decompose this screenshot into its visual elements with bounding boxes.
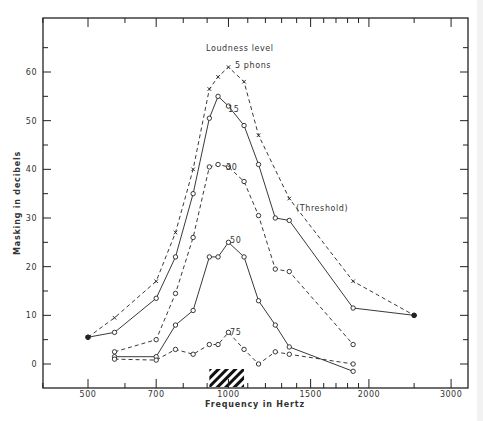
plot-frame	[43, 18, 468, 388]
circle-marker-icon	[351, 306, 355, 310]
circle-marker-icon	[273, 350, 277, 354]
circle-marker-icon	[207, 116, 211, 120]
circle-marker-icon	[191, 235, 195, 239]
x-tick-label: 2000	[358, 390, 380, 399]
y-tick-label: 50	[26, 117, 37, 126]
series-line	[115, 164, 354, 351]
x-tick-label: 1000	[217, 390, 239, 399]
y-tick-label: 40	[26, 165, 37, 174]
circle-marker-icon	[287, 352, 291, 356]
annotations: Loudness level5 phons15305075(Threshold)	[206, 44, 348, 338]
x-tick-label: 3000	[440, 390, 462, 399]
circle-marker-icon	[273, 267, 277, 271]
y-axis-label: Masking in decibels	[13, 151, 22, 255]
circle-marker-icon	[173, 323, 177, 327]
circle-marker-icon	[242, 179, 246, 183]
circle-marker-icon	[216, 162, 220, 166]
plot-border	[43, 18, 468, 388]
annotation-label: 50	[230, 236, 241, 245]
x-tick-label: 1500	[299, 390, 321, 399]
series-5-phons	[86, 65, 416, 339]
circle-marker-icon	[273, 323, 277, 327]
circle-marker-icon	[256, 362, 260, 366]
y-tick-label: 0	[31, 360, 37, 369]
y-tick-label: 30	[26, 214, 37, 223]
series-line	[88, 67, 414, 337]
y-axis-ticks: 0102030405060	[26, 48, 468, 369]
circle-marker-icon	[207, 342, 211, 346]
circle-marker-icon	[216, 255, 220, 259]
circle-marker-icon	[273, 216, 277, 220]
circle-marker-icon	[207, 255, 211, 259]
circle-marker-icon	[242, 123, 246, 127]
circle-marker-icon	[216, 342, 220, 346]
y-tick-label: 60	[26, 68, 37, 77]
x-marker-icon	[242, 80, 246, 84]
x-marker-icon	[227, 65, 231, 69]
x-axis-ticks: 5007001000150020003000	[43, 18, 462, 399]
circle-marker-icon	[173, 255, 177, 259]
circle-marker-icon	[112, 350, 116, 354]
circle-marker-icon	[351, 369, 355, 373]
circle-marker-icon	[207, 165, 211, 169]
series-15	[86, 94, 417, 339]
circle-marker-icon	[256, 162, 260, 166]
circle-marker-icon	[173, 291, 177, 295]
circle-marker-icon	[242, 255, 246, 259]
circle-marker-icon	[154, 337, 158, 341]
y-tick-label: 10	[26, 311, 37, 320]
circle-marker-icon	[287, 218, 291, 222]
series-30	[112, 162, 355, 354]
masking-band-hatch	[209, 369, 244, 387]
circle-marker-icon	[287, 269, 291, 273]
x-marker-icon	[216, 75, 220, 79]
x-axis-label: Frequency in Hertz	[205, 400, 305, 409]
circle-marker-icon	[256, 213, 260, 217]
x-tick-label: 500	[80, 390, 97, 399]
annotation-label: 75	[230, 328, 241, 337]
masking-band	[209, 369, 244, 387]
x-tick-label: 700	[148, 390, 165, 399]
circle-marker-icon	[173, 347, 177, 351]
annotation-label: 15	[228, 105, 239, 114]
x-marker-icon	[287, 197, 291, 201]
series-group	[86, 65, 417, 373]
annotation-label: 5 phons	[235, 61, 271, 70]
x-marker-icon	[113, 316, 117, 320]
y-tick-label: 20	[26, 263, 37, 272]
x-marker-icon	[154, 279, 158, 283]
series-50	[112, 240, 355, 373]
circle-marker-icon	[112, 330, 116, 334]
circle-marker-icon	[351, 342, 355, 346]
x-marker-icon	[351, 279, 355, 283]
annotation-label: (Threshold)	[296, 204, 348, 213]
circle-marker-icon	[216, 94, 220, 98]
masking-chart: 5007001000150020003000 0102030405060 Lou…	[0, 0, 483, 421]
series-line	[88, 96, 414, 337]
circle-marker-icon	[154, 296, 158, 300]
circle-marker-icon	[242, 347, 246, 351]
circle-marker-icon	[287, 345, 291, 349]
circle-marker-icon	[256, 299, 260, 303]
series-line	[115, 242, 354, 371]
annotation-label: Loudness level	[206, 44, 274, 53]
circle-marker-icon	[112, 357, 116, 361]
circle-marker-icon	[154, 358, 158, 362]
filled-marker-icon	[86, 335, 90, 339]
annotation-label: 30	[226, 163, 237, 172]
filled-marker-icon	[412, 313, 416, 317]
circle-marker-icon	[191, 352, 195, 356]
circle-marker-icon	[191, 308, 195, 312]
circle-marker-icon	[351, 362, 355, 366]
circle-marker-icon	[191, 191, 195, 195]
